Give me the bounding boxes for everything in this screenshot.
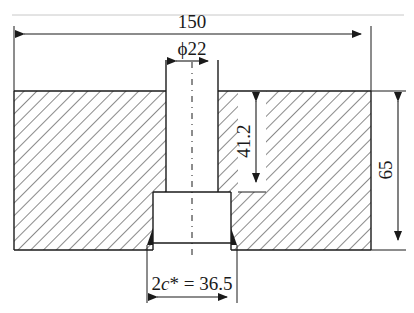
dim-hole-depth: 41.2 (233, 124, 254, 157)
dim-counterbore: 2c* = 36.5 (152, 273, 233, 294)
dim-hole-diameter: ϕ22 (177, 38, 206, 59)
section-drawing: 150 ϕ22 41.2 65 2c* = 36.5 (0, 0, 414, 313)
dim-counterbore-suffix: * = 36.5 (169, 273, 232, 294)
dim-overall-height: 65 (375, 161, 396, 180)
dim-counterbore-prefix: 2 (152, 273, 162, 294)
dim-overall-width: 150 (178, 11, 207, 32)
